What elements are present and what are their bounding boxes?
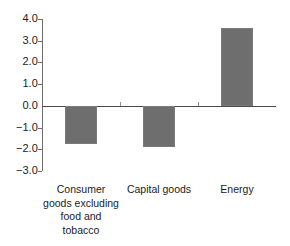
plot-area [42, 19, 276, 171]
y-axis-tick-label: 4.0 [22, 12, 38, 24]
category-label: Energy [189, 183, 285, 197]
bar [143, 106, 175, 147]
y-axis-tick-label: −1.0 [16, 121, 38, 133]
y-axis-tick-label: 3.0 [22, 34, 38, 46]
bar-chart-figure: 4.03.02.01.00.0−1.0−2.0−3.0 Consumer goo… [0, 0, 290, 246]
bar [65, 106, 97, 144]
y-axis-tick-label: −2.0 [16, 142, 38, 154]
bar [221, 28, 253, 106]
y-axis-tick-label: 2.0 [22, 55, 38, 67]
y-axis-tick-label: 0.0 [22, 99, 38, 111]
y-axis-tick-label: −3.0 [16, 164, 38, 176]
y-axis-tick-label: 1.0 [22, 77, 38, 89]
y-axis-tick-mark [38, 171, 42, 172]
category-separator-tick [198, 102, 199, 106]
category-separator-tick [120, 102, 121, 106]
